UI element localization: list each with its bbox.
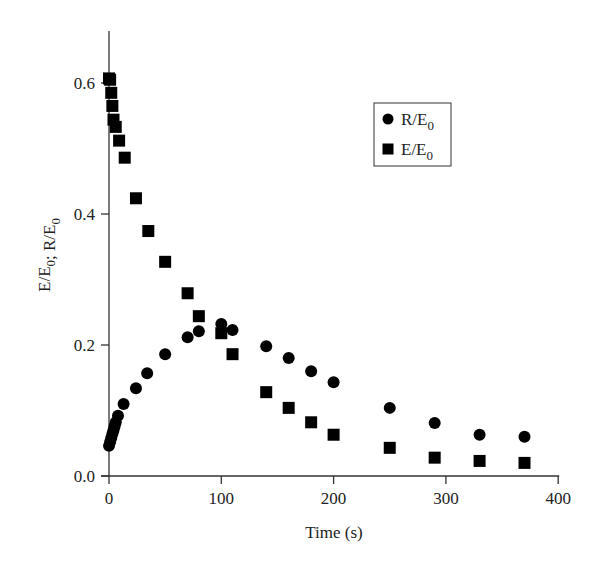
data-point-square [104,74,116,86]
x-axis-label: Time (s) [305,523,362,542]
x-axis-ticks: 0100200300400 [105,476,571,508]
data-point-square [384,442,396,454]
y-axis-ticks: 0.00.20.40.6 [74,74,109,486]
data-point-square [119,152,131,164]
x-tick-label: 0 [105,489,114,508]
data-point-square [474,455,486,467]
data-point-circle [519,431,531,443]
data-point-circle [159,348,171,360]
data-point-square [130,192,142,204]
data-point-square [429,452,441,464]
legend-circle-icon [383,114,394,125]
x-tick-label: 300 [433,489,459,508]
data-point-square [215,327,227,339]
chart: 0100200300400 0.00.20.40.6 Time (s) E/E0… [0,0,604,571]
data-point-circle [260,340,272,352]
legend: R/E0E/E0 [374,103,451,166]
data-point-circle [118,398,130,410]
data-point-square [193,310,205,322]
data-point-circle [112,410,124,422]
data-point-circle [384,402,396,414]
data-point-circle [193,325,205,337]
x-tick-label: 200 [321,489,347,508]
data-point-circle [474,429,486,441]
data-point-square [182,287,194,299]
data-points [103,72,531,468]
y-tick-label: 0.2 [74,336,95,355]
legend-square-icon [383,144,394,155]
data-point-square [142,225,154,237]
data-point-circle [182,331,194,343]
data-point-square [105,87,117,99]
data-point-square [106,100,118,112]
data-point-circle [283,352,295,364]
data-point-circle [141,367,153,379]
data-point-square [110,121,122,133]
data-point-circle [328,376,340,388]
data-point-circle [130,382,142,394]
data-point-square [328,429,340,441]
y-tick-label: 0.4 [74,205,96,224]
data-point-square [283,402,295,414]
x-tick-label: 100 [209,489,235,508]
data-point-circle [305,365,317,377]
y-tick-label: 0.0 [74,467,95,486]
data-point-square [519,457,531,469]
data-point-square [227,348,239,360]
y-tick-label: 0.6 [74,74,95,93]
data-point-circle [429,417,441,429]
x-tick-label: 400 [545,489,571,508]
data-point-square [159,256,171,268]
data-point-square [113,135,125,147]
y-axis-label: E/E0; R/E0 [35,218,63,292]
data-point-square [260,386,272,398]
data-point-square [305,416,317,428]
axes [101,31,559,477]
data-point-circle [227,324,239,336]
